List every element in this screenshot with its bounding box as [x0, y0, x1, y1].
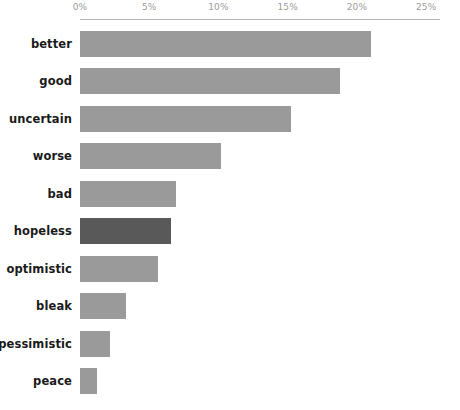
- bar-row: better: [0, 25, 460, 63]
- bar-optimistic[interactable]: [80, 256, 158, 282]
- category-label-good: good: [39, 74, 72, 88]
- bar-row: peace: [0, 363, 460, 401]
- bar-uncertain[interactable]: [80, 106, 291, 132]
- category-label-pessimistic: pessimistic: [0, 337, 72, 351]
- category-label-bleak: bleak: [36, 299, 72, 313]
- bar-chart: 0%5%10%15%20%25% bettergooduncertainwors…: [0, 0, 460, 410]
- bar-worse[interactable]: [80, 143, 221, 169]
- x-tick-label-5pct: 5%: [142, 2, 157, 12]
- category-label-uncertain: uncertain: [9, 112, 72, 126]
- x-tick-label-20pct: 20%: [347, 2, 368, 12]
- bar-good[interactable]: [80, 68, 340, 94]
- bar-row: good: [0, 63, 460, 101]
- bar-row: optimistic: [0, 250, 460, 288]
- category-label-better: better: [31, 37, 72, 51]
- bar-row: worse: [0, 138, 460, 176]
- bar-row: bleak: [0, 288, 460, 326]
- category-label-bad: bad: [47, 187, 72, 201]
- x-tick-label-0pct: 0%: [73, 2, 88, 12]
- x-tick-label-25pct: 25%: [416, 2, 437, 12]
- x-axis-line: [80, 19, 440, 20]
- x-tick-label-10pct: 10%: [208, 2, 229, 12]
- bar-peace[interactable]: [80, 368, 97, 394]
- x-tick-label-15pct: 15%: [277, 2, 298, 12]
- bar-bleak[interactable]: [80, 293, 126, 319]
- bar-row: bad: [0, 175, 460, 213]
- bar-row: pessimistic: [0, 325, 460, 363]
- bar-better[interactable]: [80, 31, 371, 57]
- bar-pessimistic[interactable]: [80, 331, 110, 357]
- category-label-hopeless: hopeless: [14, 224, 72, 238]
- category-label-optimistic: optimistic: [6, 262, 72, 276]
- bar-bad[interactable]: [80, 181, 176, 207]
- category-label-worse: worse: [33, 149, 72, 163]
- bar-hopeless[interactable]: [80, 218, 171, 244]
- plot-area: 0%5%10%15%20%25% bettergooduncertainwors…: [0, 0, 460, 410]
- bar-row: uncertain: [0, 100, 460, 138]
- category-label-peace: peace: [33, 374, 72, 388]
- bar-row: hopeless: [0, 213, 460, 251]
